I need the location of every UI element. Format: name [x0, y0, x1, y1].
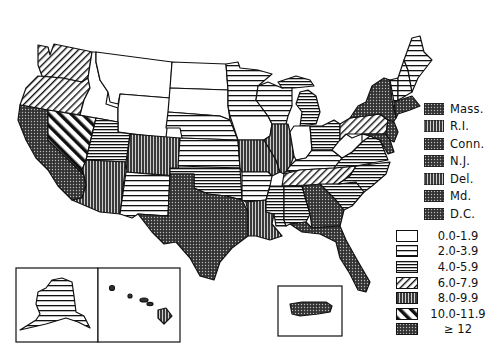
- legend-item-del: Del.: [424, 170, 484, 188]
- legend-class-4: 8.0-9.9: [396, 290, 490, 306]
- swatch-dark-vertical-icon: [396, 292, 418, 304]
- state-kansas[interactable]: [178, 138, 240, 168]
- swatch-vertical-lines-icon: [424, 173, 444, 185]
- swatch-dotted-icon: [424, 103, 444, 115]
- swatch-blank-icon: [396, 230, 418, 242]
- legend-class-0: 0.0-1.9: [396, 228, 490, 244]
- legend-item-conn: Conn.: [424, 135, 484, 153]
- swatch-dense-horizontal-icon: [396, 261, 418, 273]
- swatch-dotted-icon: [396, 323, 418, 335]
- legend-item-md: Md.: [424, 188, 484, 206]
- legend-class-1: 2.0-3.9: [396, 244, 490, 260]
- swatch-wide-diagonal-icon: [396, 308, 418, 320]
- small-states-legend: Mass. R.I. Conn. N.J. Del. Md. D.C.: [424, 100, 484, 223]
- legend-class-3: 6.0-7.9: [396, 275, 490, 291]
- state-michigan-up[interactable]: [278, 76, 314, 88]
- legend-item-ri: R.I.: [424, 118, 484, 136]
- legend-item-nj: N.J.: [424, 153, 484, 171]
- swatch-diagonal-icon: [396, 277, 418, 289]
- swatch-dotted-icon: [424, 190, 444, 202]
- state-florida[interactable]: [290, 222, 370, 292]
- swatch-dotted-icon: [424, 138, 444, 150]
- legend-class-2: 4.0-5.9: [396, 259, 490, 275]
- swatch-vertical-lines-icon: [424, 120, 444, 132]
- state-wyoming[interactable]: [118, 94, 170, 138]
- state-north-dakota[interactable]: [170, 62, 228, 90]
- legend-class-5: 10.0-11.9: [396, 306, 490, 322]
- swatch-wide-horizontal-icon: [396, 245, 418, 257]
- class-legend: 0.0-1.9 2.0-3.9 4.0-5.9 6.0-7.9 8.0-9.9 …: [396, 228, 490, 337]
- legend-item-mass: Mass.: [424, 100, 484, 118]
- state-iowa[interactable]: [230, 116, 272, 140]
- swatch-dotted-icon: [424, 155, 444, 167]
- state-michigan[interactable]: [296, 90, 320, 126]
- legend-item-dc: D.C.: [424, 205, 484, 223]
- state-new-mexico[interactable]: [120, 172, 170, 218]
- legend-class-6: ≥ 12: [396, 322, 490, 338]
- inset-hawaii-frame: [98, 268, 180, 342]
- swatch-dotted-icon: [424, 208, 444, 220]
